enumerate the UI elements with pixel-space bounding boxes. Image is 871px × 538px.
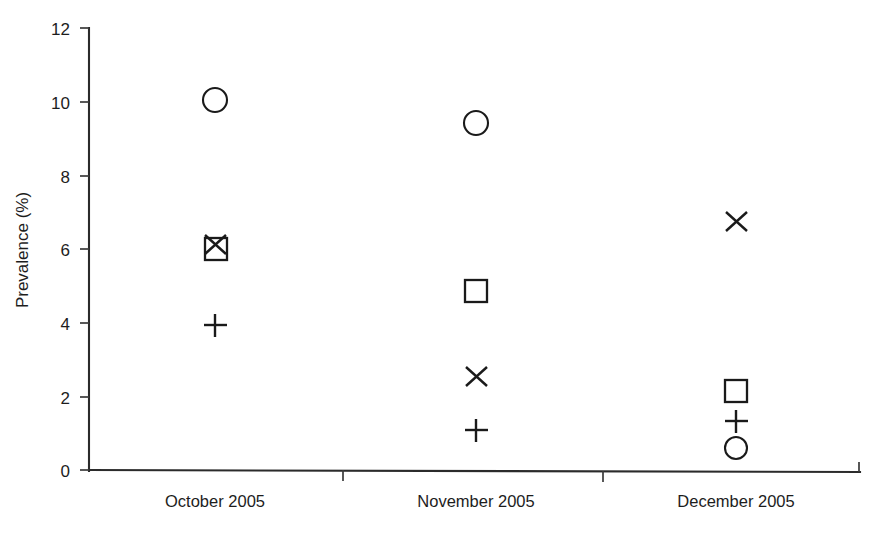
y-tick-label-8: 8 <box>61 168 70 187</box>
data-point-plus-november <box>465 419 488 442</box>
data-point-cross-november <box>466 367 487 386</box>
data-point-circle-december <box>725 437 747 459</box>
data-point-square-december <box>725 380 747 402</box>
y-tick-label-2: 2 <box>61 389 70 408</box>
y-axis-title: Prevalence (%) <box>13 192 32 308</box>
data-point-plus-october <box>204 314 227 337</box>
data-point-circle-november <box>464 111 488 135</box>
x-label-november: November 2005 <box>417 492 534 510</box>
x-axis-line <box>89 470 860 472</box>
y-tick-label-12: 12 <box>51 20 70 39</box>
y-tick-label-6: 6 <box>61 241 70 260</box>
data-point-square-november <box>465 280 487 302</box>
y-tick-label-0: 0 <box>61 462 70 481</box>
chart-figure: 12 10 8 6 4 2 0 Prevalence (%) October 2… <box>0 0 871 538</box>
data-point-square-october <box>205 238 227 260</box>
y-tick-label-4: 4 <box>61 315 70 334</box>
x-label-october: October 2005 <box>165 492 265 510</box>
data-point-plus-december <box>725 410 748 433</box>
scatter-plot: 12 10 8 6 4 2 0 Prevalence (%) October 2… <box>0 0 871 538</box>
x-label-december: December 2005 <box>677 492 794 510</box>
y-tick-label-10: 10 <box>51 94 70 113</box>
data-point-circle-october <box>203 88 227 112</box>
data-point-cross-december <box>726 212 747 231</box>
